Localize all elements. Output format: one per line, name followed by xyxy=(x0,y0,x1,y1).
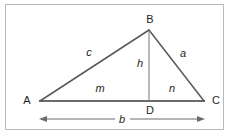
dimension-arrow-right-icon xyxy=(197,116,205,122)
line-side-a xyxy=(149,30,204,101)
vertex-label-b: B xyxy=(146,14,153,25)
figure-canvas: A B C D c a h m n b xyxy=(0,0,236,140)
segment-label-n: n xyxy=(169,83,175,94)
vertex-label-a: A xyxy=(23,95,30,106)
vertex-label-d: D xyxy=(146,105,154,116)
side-label-c: c xyxy=(86,47,92,58)
dimension-label-b: b xyxy=(119,114,125,125)
altitude-label-h: h xyxy=(137,58,143,69)
segment-label-m: m xyxy=(95,83,104,94)
vertex-label-c: C xyxy=(212,95,220,106)
side-label-a: a xyxy=(180,48,186,59)
dimension-arrow-left-icon xyxy=(39,116,47,122)
